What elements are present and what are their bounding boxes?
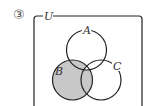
universe-label: U bbox=[44, 10, 54, 23]
set-a-label: A bbox=[82, 24, 91, 37]
set-b-label: B bbox=[54, 65, 63, 78]
set-c-label: C bbox=[113, 60, 122, 73]
venn-diagram: U A B C bbox=[0, 0, 147, 106]
